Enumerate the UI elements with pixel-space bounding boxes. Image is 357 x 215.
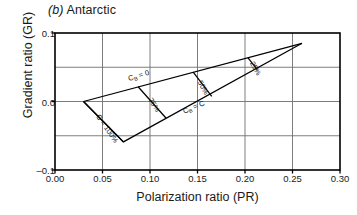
curve-annotations: CB = 0CB = CC = 100%75%50%25% <box>94 60 263 145</box>
svg-text:CB = C: CB = C <box>181 98 206 116</box>
plot-canvas: CB = 0CB = CC = 100%75%50%25% <box>0 0 357 215</box>
svg-text:25%: 25% <box>248 60 263 78</box>
figure-panel: (b) Antarctic Gradient ratio (GR) Polari… <box>0 0 357 215</box>
svg-text:CB = 0: CB = 0 <box>127 68 150 83</box>
svg-text:C = 100%: C = 100% <box>94 113 120 145</box>
svg-text:50%: 50% <box>196 79 211 97</box>
data-curves <box>84 43 303 142</box>
